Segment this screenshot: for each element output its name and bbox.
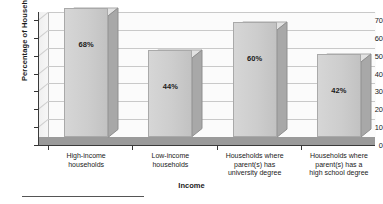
x-category-label: Households whereparent(s) hasuniversity … xyxy=(213,152,297,178)
y-tick-mark xyxy=(34,20,38,21)
bar-value-label: 60% xyxy=(233,54,277,63)
y-tick-label: 20 xyxy=(353,105,383,114)
x-category-label: High-incomehouseholds xyxy=(44,152,128,169)
y-tick-label: 50 xyxy=(353,51,383,60)
bar-side-face xyxy=(277,22,287,137)
x-category-label-line: Households where xyxy=(213,152,297,161)
y-tick-label: 40 xyxy=(353,69,383,78)
x-category-label-line: households xyxy=(44,161,128,170)
x-category-label-line: Low-income xyxy=(128,152,212,161)
bar-side-face xyxy=(192,50,202,137)
y-axis-title: Percentage of Households xyxy=(20,0,29,103)
y-tick-mark xyxy=(34,109,38,110)
y-tick-mark xyxy=(34,38,38,39)
bar-front-face xyxy=(148,50,192,137)
x-category-label-line: high school degree xyxy=(297,169,381,178)
x-tick-mark xyxy=(48,146,49,150)
x-category-label: Low-incomehouseholds xyxy=(128,152,212,169)
y-axis-line xyxy=(38,12,39,145)
bar-chart: Percentage of Households 68%44%60%42% 01… xyxy=(0,0,383,204)
x-category-label: Households whereparent(s) has ahigh scho… xyxy=(297,152,381,178)
bar: 68% xyxy=(64,16,108,137)
x-category-label-line: households xyxy=(128,161,212,170)
x-category-label-line: parent(s) has xyxy=(213,161,297,170)
y-tick-mark xyxy=(34,56,38,57)
y-tick-mark xyxy=(34,127,38,128)
bar-front-face xyxy=(233,22,277,137)
bar-front-face xyxy=(64,8,108,137)
y-tick-label: 70 xyxy=(353,16,383,25)
bar-value-label: 44% xyxy=(148,82,192,91)
y-tick-mark xyxy=(34,74,38,75)
x-category-label-line: High-income xyxy=(44,152,128,161)
x-axis-title: Income xyxy=(0,181,383,190)
y-tick-label: 30 xyxy=(353,87,383,96)
cropped-divider xyxy=(22,196,144,197)
bar-side-face xyxy=(108,8,118,137)
plot-area: 68%44%60%42% xyxy=(38,12,375,145)
y-tick-label: 10 xyxy=(353,123,383,132)
y-tick-mark xyxy=(34,145,38,146)
x-axis-line xyxy=(38,145,375,146)
x-category-label-line: Households where xyxy=(297,152,381,161)
x-tick-mark xyxy=(217,146,218,150)
bar: 60% xyxy=(233,30,277,137)
x-category-label-line: university degree xyxy=(213,169,297,178)
y-tick-label: 60 xyxy=(353,33,383,42)
x-category-label-line: parent(s) has a xyxy=(297,161,381,170)
x-tick-mark xyxy=(301,146,302,150)
y-tick-mark xyxy=(34,91,38,92)
y-tick-label: 0 xyxy=(353,141,383,150)
bar-value-label: 68% xyxy=(64,40,108,49)
bar: 44% xyxy=(148,58,192,137)
x-tick-mark xyxy=(132,146,133,150)
